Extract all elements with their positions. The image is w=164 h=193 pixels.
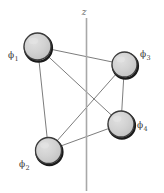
axis-layer: z bbox=[81, 7, 87, 191]
node-highlight bbox=[113, 116, 122, 122]
z-axis-label: z bbox=[81, 7, 87, 17]
node-disc[interactable] bbox=[112, 52, 137, 77]
label-subscript: 3 bbox=[146, 54, 150, 62]
node-label-phi3: ϕ3 bbox=[140, 49, 151, 62]
node-phi3[interactable] bbox=[112, 52, 138, 79]
node-disc[interactable] bbox=[24, 33, 51, 60]
graph-diagram: z ϕ1ϕ2ϕ3ϕ4 bbox=[0, 0, 164, 193]
node-label-phi1: ϕ1 bbox=[8, 50, 19, 63]
node-highlight bbox=[40, 142, 49, 148]
label-symbol: ϕ bbox=[8, 50, 14, 60]
label-symbol: ϕ bbox=[137, 120, 143, 130]
node-label-phi4: ϕ4 bbox=[137, 120, 148, 133]
label-subscript: 2 bbox=[25, 164, 29, 172]
node-disc[interactable] bbox=[108, 111, 134, 137]
node-phi4[interactable] bbox=[108, 111, 135, 139]
node-highlight bbox=[29, 38, 38, 44]
node-highlight bbox=[117, 57, 126, 63]
label-symbol: ϕ bbox=[140, 49, 146, 59]
label-subscript: 4 bbox=[143, 125, 147, 133]
figure-canvas: z ϕ1ϕ2ϕ3ϕ4 bbox=[0, 0, 164, 193]
label-symbol: ϕ bbox=[19, 159, 25, 169]
edge-phi1-phi4 bbox=[38, 47, 122, 125]
node-disc[interactable] bbox=[36, 138, 62, 164]
label-subscript: 1 bbox=[14, 55, 18, 63]
node-phi2[interactable] bbox=[36, 138, 63, 166]
node-label-phi2: ϕ2 bbox=[19, 159, 30, 172]
node-layer bbox=[24, 33, 138, 165]
node-phi1[interactable] bbox=[24, 33, 52, 62]
